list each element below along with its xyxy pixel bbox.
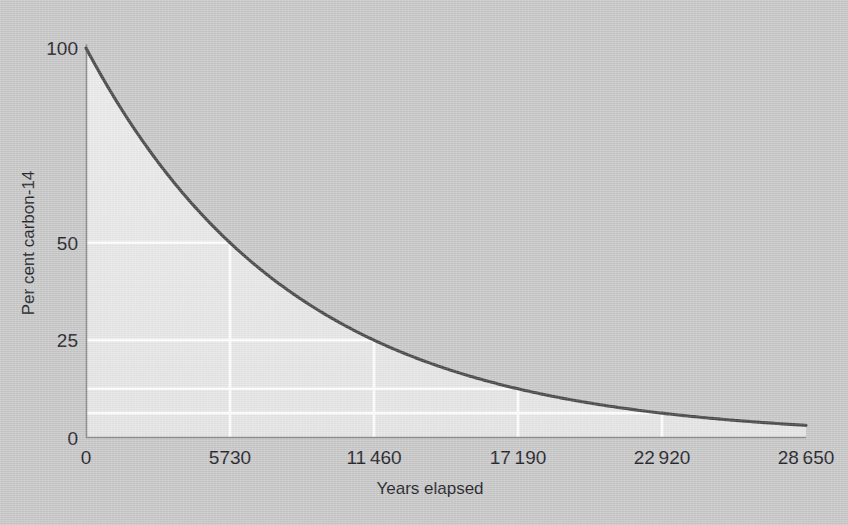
y-axis-title: Per cent carbon-14 <box>19 171 38 316</box>
x-axis-tick-labels: 0573011 46017 19022 92028 650 <box>81 447 835 468</box>
y-axis-tick-labels: 02550100 <box>46 38 78 449</box>
y-tick-label-50: 50 <box>57 233 78 254</box>
x-tick-label-5730: 5730 <box>209 447 251 468</box>
carbon-14-decay-figure: 02550100 0573011 46017 19022 92028 650 Y… <box>0 0 848 525</box>
x-tick-label-22920: 22 920 <box>634 447 691 468</box>
y-tick-label-0: 0 <box>67 428 78 449</box>
decay-chart-svg: 02550100 0573011 46017 19022 92028 650 Y… <box>0 0 848 525</box>
x-tick-label-17190: 17 190 <box>490 447 547 468</box>
y-tick-label-100: 100 <box>46 38 78 59</box>
y-tick-label-25: 25 <box>57 330 78 351</box>
x-axis-title: Years elapsed <box>376 479 483 498</box>
x-tick-label-28650: 28 650 <box>778 447 835 468</box>
x-tick-label-0: 0 <box>81 447 92 468</box>
x-tick-label-11460: 11 460 <box>346 447 401 468</box>
